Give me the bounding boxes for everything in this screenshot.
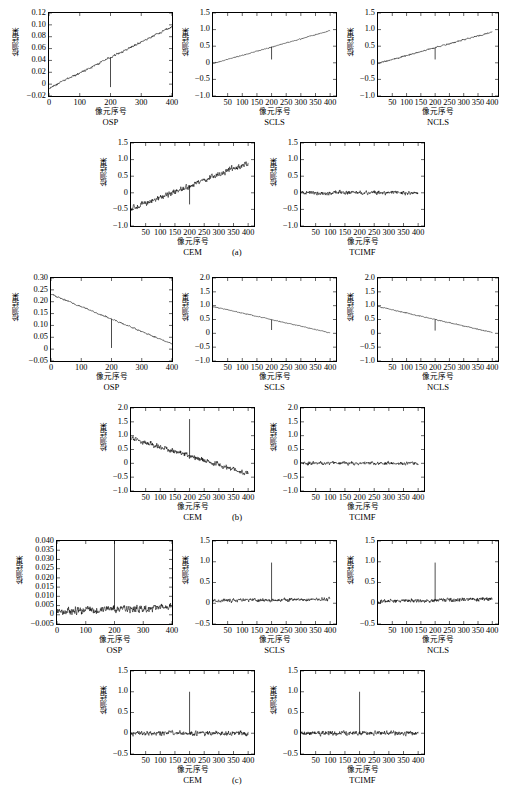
plot-area-c-tcimf (300, 670, 425, 755)
y-tick-label: 1.0 (335, 301, 375, 309)
y-axis-label: 检测结果 (182, 28, 189, 56)
y-tick-label: −1.0 (258, 487, 298, 495)
y-tick-label: −0.5 (88, 205, 128, 213)
y-tick-label: −0.5 (258, 750, 298, 758)
y-tick-label: 0 (335, 329, 375, 337)
y-tick-label: 0 (335, 59, 375, 67)
y-tick-label: 0 (258, 189, 298, 197)
x-axis-label: 像元序号 (75, 636, 155, 644)
y-axis-label: 检测结果 (347, 28, 354, 56)
y-tick-label: 1.0 (258, 155, 298, 163)
x-tick-label: 200 (101, 627, 129, 635)
method-label-b-cem: CEM (153, 513, 233, 522)
y-tick-label: 0.5 (335, 42, 375, 50)
y-tick-label: 0 (170, 329, 210, 337)
y-axis-label: 检测结果 (12, 28, 19, 56)
y-tick-label: 0 (88, 459, 128, 467)
method-label-b-osp: OSP (72, 383, 152, 392)
y-tick-label: 2.0 (335, 274, 375, 282)
plot-area-c-cem (130, 670, 255, 755)
y-tick-label: 1.5 (88, 139, 128, 147)
y-tick-label: 0.10 (8, 321, 48, 329)
plot-area-a-scls (212, 12, 337, 97)
x-axis-label: 像元序号 (153, 503, 233, 511)
y-tick-label: 0.5 (88, 172, 128, 180)
x-tick-label: 400 (404, 494, 432, 502)
method-label-a-cem: CEM (153, 248, 233, 257)
y-axis-label: 检测结果 (12, 293, 19, 321)
method-label-b-tcimf: TCIMF (323, 513, 403, 522)
y-tick-label: 1.5 (335, 537, 375, 545)
x-axis-label: 像元序号 (235, 636, 315, 644)
y-tick-label: 0.5 (258, 172, 298, 180)
y-tick-label: 0 (170, 59, 210, 67)
series-line (301, 461, 418, 465)
y-tick-label: −1.0 (88, 487, 128, 495)
y-axis-label: 检测结果 (270, 158, 277, 186)
y-tick-label: −1.0 (170, 92, 210, 100)
y-tick-label: 1.5 (258, 139, 298, 147)
y-tick-label: 0.040 (14, 537, 54, 545)
y-tick-label: 1.5 (170, 9, 210, 17)
y-tick-label: 0 (258, 729, 298, 737)
y-tick-label: 0.5 (335, 315, 375, 323)
figure-root: −0.0200.020.040.060.080.100.120100200300… (0, 0, 506, 799)
method-label-c-osp: OSP (75, 646, 155, 655)
y-tick-label: 0.5 (88, 445, 128, 453)
y-tick-label: −1.0 (258, 222, 298, 230)
y-tick-label: 1.0 (258, 687, 298, 695)
x-tick-label: 0 (35, 99, 63, 107)
y-tick-label: 0.05 (8, 333, 48, 341)
y-tick-label: 0 (88, 189, 128, 197)
group-label-1: (a) (232, 247, 242, 257)
plot-area-b-cem (130, 407, 255, 492)
y-tick-label: 0.30 (8, 274, 48, 282)
y-tick-label: 0.5 (170, 578, 210, 586)
y-tick-label: −1.0 (170, 357, 210, 365)
y-tick-label: 0 (6, 80, 46, 88)
x-axis-label: 像元序号 (323, 766, 403, 774)
plot-area-c-osp (56, 540, 173, 625)
y-tick-label: 0.5 (88, 708, 128, 716)
x-axis-label: 像元序号 (235, 108, 315, 116)
y-tick-label: 1.0 (335, 25, 375, 33)
y-axis-label: 检测结果 (182, 293, 189, 321)
y-tick-label: 0.5 (258, 445, 298, 453)
y-tick-label: 1.5 (258, 667, 298, 675)
x-axis-label: 像元序号 (398, 108, 478, 116)
method-label-b-ncls: NCLS (398, 383, 478, 392)
y-tick-label: 0.5 (335, 578, 375, 586)
y-tick-label: 0.12 (6, 9, 46, 17)
x-axis-label: 像元序号 (398, 636, 478, 644)
y-tick-label: 2.0 (258, 404, 298, 412)
y-tick-label: 0.010 (14, 592, 54, 600)
y-tick-label: −1.0 (88, 222, 128, 230)
y-tick-label: 0 (170, 599, 210, 607)
y-axis-label: 检测结果 (347, 556, 354, 584)
series-line (301, 190, 418, 195)
y-tick-label: −0.5 (88, 473, 128, 481)
x-tick-label: 0 (43, 627, 71, 635)
method-label-a-tcimf: TCIMF (323, 248, 403, 257)
x-tick-label: 400 (478, 364, 506, 372)
y-axis-label: 检测结果 (100, 158, 107, 186)
plot-area-b-ncls (377, 277, 499, 362)
y-tick-label: −0.5 (335, 343, 375, 351)
x-axis-label: 像元序号 (72, 373, 152, 381)
plot-area-a-ncls (377, 12, 499, 97)
plot-area-a-osp (48, 12, 173, 97)
method-label-c-cem: CEM (153, 776, 233, 785)
x-axis-label: 像元序号 (71, 108, 151, 116)
method-label-a-osp: OSP (71, 118, 151, 127)
y-tick-label: 0 (258, 459, 298, 467)
y-tick-label: −0.5 (170, 75, 210, 83)
y-tick-label: 0.035 (14, 546, 54, 554)
y-tick-label: 0.5 (258, 708, 298, 716)
x-axis-label: 像元序号 (235, 373, 315, 381)
y-tick-label: 2.0 (170, 274, 210, 282)
x-tick-label: 0 (37, 364, 65, 372)
plot-area-a-cem (130, 142, 255, 227)
y-tick-label: −0.5 (335, 620, 375, 628)
x-axis-label: 像元序号 (153, 238, 233, 246)
y-tick-label: 1.0 (170, 557, 210, 565)
